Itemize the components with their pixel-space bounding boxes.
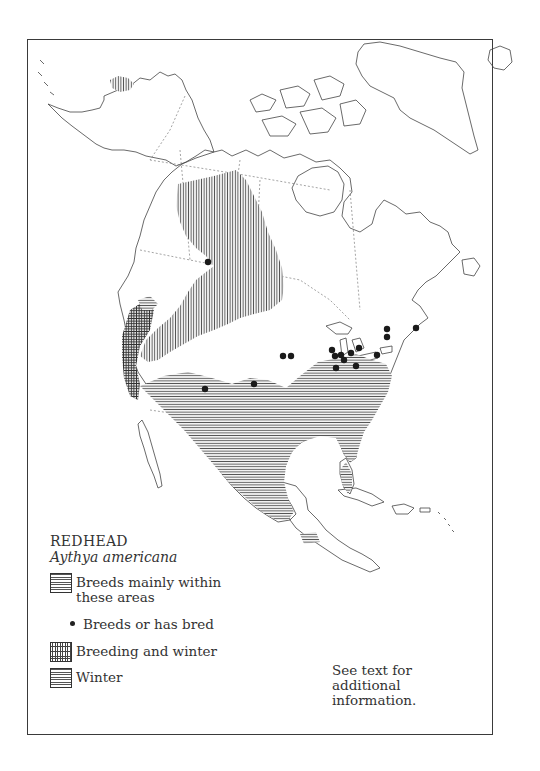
legend-item-bred-record: Breeds or has bred: [50, 615, 250, 632]
aleutian-islands: [38, 60, 54, 95]
hispaniola: [392, 504, 414, 514]
iceland-outline: [488, 46, 512, 70]
breeding-record-dot: [348, 350, 354, 356]
breeding-swatch-icon: [50, 573, 72, 593]
species-common-name: REDHEAD: [50, 533, 250, 549]
puerto-rico: [420, 508, 430, 512]
cuba: [338, 488, 384, 506]
breeding-record-dot: [332, 353, 338, 359]
breeding-record-dot: [329, 347, 335, 353]
breeding-record-dot: [288, 353, 294, 359]
crosshatch-swatch-icon: [50, 642, 72, 662]
breeding-record-dot: [202, 386, 208, 392]
central-america: [282, 482, 380, 572]
legend-item-breeding: Breeds mainly within these areas: [50, 573, 250, 605]
map-legend: REDHEAD Aythya americana Breeds mainly w…: [50, 533, 250, 694]
baja-california: [138, 420, 162, 488]
lesser-antilles: [438, 512, 454, 532]
breeding-record-dot: [353, 363, 359, 369]
breeding-record-dot: [280, 353, 286, 359]
legend-label: Breeds mainly within these areas: [76, 573, 250, 605]
breeding-record-dot: [333, 365, 339, 371]
legend-label: Winter: [76, 668, 123, 685]
breeding-record-dot: [384, 326, 390, 332]
breeding-record-dot: [341, 357, 347, 363]
breeding-record-dot: [374, 352, 380, 358]
dot-icon: [70, 621, 75, 626]
legend-item-winter: Winter: [50, 668, 250, 688]
hudson-bay: [292, 166, 344, 216]
legend-label: Breeds or has bred: [83, 615, 214, 632]
footnote: See text for additional information.: [332, 663, 482, 708]
breeding-record-dot: [251, 381, 257, 387]
breeding-record-dot: [384, 334, 390, 340]
winter-swatch-icon: [50, 668, 72, 688]
legend-item-breeding-and-winter: Breeding and winter: [50, 642, 250, 662]
species-scientific-name: Aythya americana: [50, 549, 250, 565]
breeding-record-dot: [356, 345, 362, 351]
breeding-record-dot: [205, 259, 211, 265]
legend-label: Breeding and winter: [76, 642, 217, 659]
newfoundland: [462, 258, 480, 276]
arctic-islands: [250, 76, 366, 136]
breeding-record-dot: [413, 325, 419, 331]
greenland-outline: [356, 42, 478, 154]
